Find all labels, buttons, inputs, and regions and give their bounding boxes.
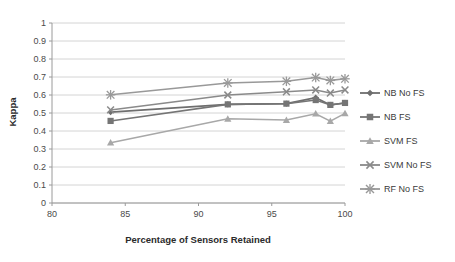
y-axis-tick-label: 0 — [41, 198, 46, 208]
series-svm-fs — [107, 110, 349, 146]
legend-item-label: NB FS — [384, 112, 411, 122]
y-axis-tick-label: 0.4 — [33, 126, 46, 136]
series-plot-area — [106, 73, 350, 146]
x-axis-tick-label: 80 — [47, 209, 57, 219]
y-axis-tick-label: 1 — [41, 18, 46, 28]
y-axis-tick-label: 0.8 — [33, 54, 46, 64]
data-point-marker — [282, 77, 292, 87]
square-marker — [342, 100, 348, 106]
data-point-marker — [108, 118, 114, 124]
data-point-marker — [342, 100, 348, 106]
data-point-marker — [223, 78, 233, 88]
x-axis-tick-label: 100 — [337, 209, 352, 219]
x-axis-tick-label: 95 — [267, 209, 277, 219]
y-axis-tick-label: 0.5 — [33, 108, 46, 118]
gridlines — [52, 23, 345, 203]
legend: NB No FSNB FSSVM FSSVM No FSRF No FS — [360, 88, 432, 194]
chart-container: 00.10.20.30.40.50.60.70.80.91 8085909510… — [0, 0, 455, 262]
y-axis-tick-label: 0.9 — [33, 36, 46, 46]
data-point-marker — [367, 114, 374, 121]
data-point-marker — [106, 90, 116, 100]
legend-item-label: SVM No FS — [384, 160, 432, 170]
data-point-marker — [313, 97, 319, 103]
y-axis-title: Kappa — [7, 97, 18, 127]
square-marker — [225, 101, 231, 107]
data-point-marker — [326, 76, 336, 86]
legend-item-label: SVM FS — [384, 136, 418, 146]
legend-item-label: NB No FS — [384, 88, 425, 98]
y-axis-tick-label: 0.1 — [33, 180, 46, 190]
diamond-marker — [367, 90, 374, 97]
triangle-marker — [327, 118, 334, 124]
legend-item-svm-fs[interactable]: SVM FS — [360, 136, 418, 146]
square-marker — [367, 114, 374, 121]
y-axis-tick-label: 0.7 — [33, 72, 46, 82]
data-point-marker — [283, 101, 289, 107]
data-point-marker — [365, 184, 375, 194]
y-axis-tick-label: 0.6 — [33, 90, 46, 100]
data-point-marker — [311, 73, 321, 83]
data-point-marker — [327, 118, 334, 124]
legend-item-nb-no-fs[interactable]: NB No FS — [360, 88, 425, 98]
legend-item-nb-fs[interactable]: NB FS — [360, 112, 411, 122]
y-axis-tick-labels: 00.10.20.30.40.50.60.70.80.91 — [33, 18, 46, 208]
legend-item-rf-no-fs[interactable]: RF No FS — [360, 184, 424, 194]
data-point-marker — [340, 74, 350, 84]
x-axis-tick-label: 90 — [193, 209, 203, 219]
x-axis-title: Percentage of Sensors Retained — [125, 234, 271, 245]
square-marker — [283, 101, 289, 107]
x-axis-tick-labels: 80859095100 — [47, 209, 353, 219]
y-axis-tick-label: 0.2 — [33, 162, 46, 172]
data-point-marker — [225, 101, 231, 107]
legend-item-label: RF No FS — [384, 184, 424, 194]
x-axis-tick-label: 85 — [120, 209, 130, 219]
axes — [49, 23, 345, 206]
square-marker — [327, 102, 333, 108]
data-point-marker — [327, 102, 333, 108]
square-marker — [108, 118, 114, 124]
legend-item-svm-no-fs[interactable]: SVM No FS — [360, 160, 432, 170]
y-axis-tick-label: 0.3 — [33, 144, 46, 154]
square-marker — [313, 97, 319, 103]
data-point-marker — [367, 90, 374, 97]
